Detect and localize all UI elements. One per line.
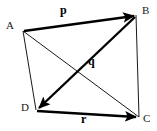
vector-arrow-r bbox=[37, 111, 136, 117]
vector-diagram-figure: A B C D p q r bbox=[0, 0, 157, 131]
vertex-label-a: A bbox=[6, 20, 14, 31]
edge-a-d bbox=[23, 31, 36, 110]
vertex-label-b: B bbox=[142, 5, 149, 16]
vector-arrow-q bbox=[39, 17, 135, 108]
vector-label-p: p bbox=[60, 4, 67, 16]
vector-arrow-p bbox=[24, 16, 134, 31]
vertex-label-d: D bbox=[21, 102, 29, 113]
edge-b-c bbox=[136, 15, 139, 117]
vector-label-r: r bbox=[81, 113, 86, 125]
vector-label-q: q bbox=[88, 55, 95, 67]
diagonal-a-c bbox=[23, 31, 139, 117]
vertex-label-c: C bbox=[143, 113, 150, 124]
